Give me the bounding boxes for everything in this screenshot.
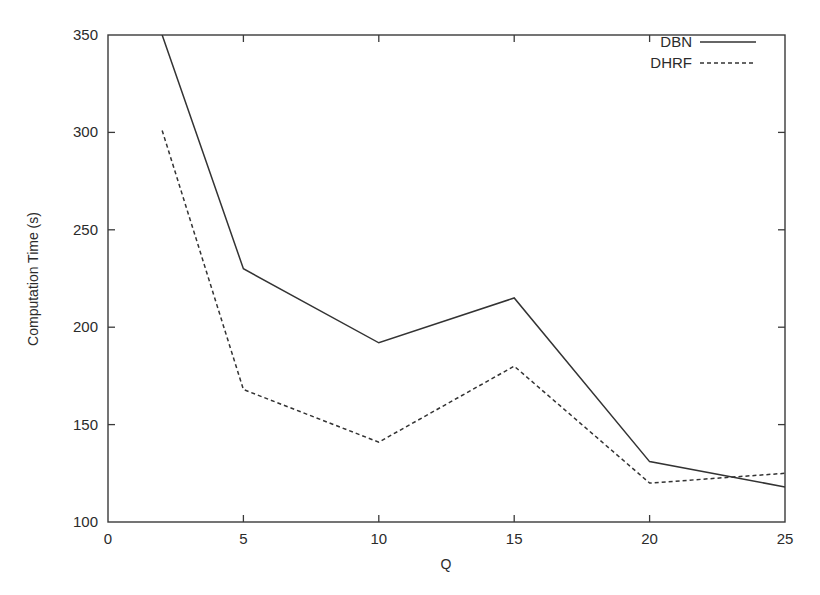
y-tick-label: 150 <box>73 416 98 433</box>
x-tick-label: 25 <box>777 530 794 547</box>
plot-frame <box>108 35 785 522</box>
y-tick-label: 300 <box>73 123 98 140</box>
x-axis-ticks <box>243 35 649 522</box>
x-tick-label: 0 <box>104 530 112 547</box>
y-axis-title: Computation Time (s) <box>25 212 41 346</box>
data-series-group <box>162 35 785 487</box>
y-axis-ticks <box>108 132 785 424</box>
x-axis-title: Q <box>441 556 452 572</box>
y-axis-tick-labels: 100150200250300350 <box>73 26 98 530</box>
y-tick-label: 200 <box>73 318 98 335</box>
x-tick-label: 5 <box>239 530 247 547</box>
y-tick-label: 250 <box>73 221 98 238</box>
chart-legend: DBNDHRF <box>650 33 756 71</box>
chart-figure: 0510152025 100150200250300350 Q Computat… <box>0 0 820 595</box>
legend-label-dhrf: DHRF <box>650 54 692 71</box>
x-tick-label: 10 <box>370 530 387 547</box>
x-tick-label: 20 <box>641 530 658 547</box>
series-line-dbn <box>162 35 785 487</box>
line-chart: 0510152025 100150200250300350 Q Computat… <box>0 0 820 595</box>
series-line-dhrf <box>162 130 785 483</box>
y-tick-label: 100 <box>73 513 98 530</box>
y-tick-label: 350 <box>73 26 98 43</box>
legend-label-dbn: DBN <box>660 33 692 50</box>
x-tick-label: 15 <box>506 530 523 547</box>
x-axis-tick-labels: 0510152025 <box>104 530 794 547</box>
